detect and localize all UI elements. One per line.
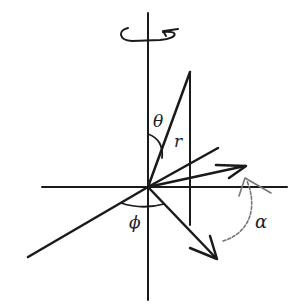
diagram-canvas [0,0,300,307]
rotation-arrow-icon [121,28,178,41]
phi-label: ϕ [129,214,141,231]
theta-label: θ [153,113,163,130]
alpha-label: α [255,213,267,231]
r-label: r [174,133,182,150]
vector-lower-right [148,187,216,258]
phi-arc [121,203,164,207]
projection-line [148,148,218,187]
alpha-arc [223,181,252,241]
